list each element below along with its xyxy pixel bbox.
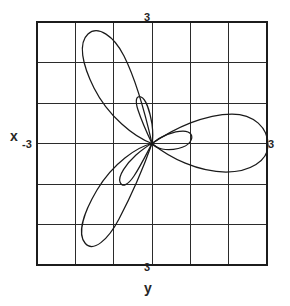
tick-label-left: -3 xyxy=(22,139,32,150)
tick-label-right: 3 xyxy=(268,139,274,150)
tick-label-top: 3 xyxy=(144,12,150,23)
axis-label-x: x xyxy=(10,129,18,143)
petal-large-lower-left xyxy=(82,144,152,247)
rose-curve xyxy=(82,31,268,247)
axis-label-y: y xyxy=(144,281,152,295)
petal-large-upper-left xyxy=(82,31,152,144)
tick-label-bottom: 3 xyxy=(144,262,150,273)
polar-rose-figure: 3 -3 3 3 x y xyxy=(0,0,290,306)
